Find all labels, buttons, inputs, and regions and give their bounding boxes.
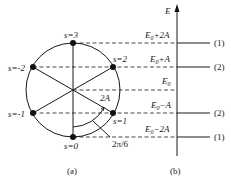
angle-arc (73, 108, 104, 127)
degeneracy-e0ma: (2) (214, 108, 225, 118)
energy-label-e0: E0 (161, 76, 171, 87)
axis-arrow-icon (175, 4, 180, 12)
state-dot-sm2 (30, 64, 36, 70)
state-label-sm1: s=-1 (8, 109, 25, 119)
state-label-s2: s=2 (113, 54, 128, 64)
energy-label-e0ma: E0−A (150, 100, 172, 111)
state-dot-s0 (70, 134, 76, 140)
state-dot-s3 (70, 40, 76, 46)
state-label-s0: s=0 (64, 141, 79, 151)
state-dot-sm1 (30, 110, 36, 116)
caption-a: (a) (67, 166, 77, 176)
coupling-label: 2A (100, 93, 111, 103)
energy-label-e0pa: E0+A (149, 54, 171, 65)
panel-b: E (1) (2) (2) (1) E0+2A E0+A E0 E0−A E0−… (144, 4, 225, 176)
energy-level-diagram: s=3 s=2 s=1 s=0 s=-1 s=-2 2A 2π/6 (a) E … (0, 0, 231, 186)
energy-label-e0m2a: E0−2A (144, 124, 170, 135)
degeneracy-e0m2a: (1) (214, 132, 225, 142)
axis-label-e: E (164, 6, 171, 16)
state-label-s1: s=1 (113, 116, 127, 126)
caption-b: (b) (170, 166, 181, 176)
state-label-s3: s=3 (64, 30, 79, 40)
state-dot-s2 (110, 64, 116, 70)
energy-label-e0p2a: E0+2A (144, 30, 170, 41)
angle-label: 2π/6 (112, 139, 129, 149)
degeneracy-e0pa: (2) (214, 62, 225, 72)
degeneracy-e0p2a: (1) (214, 38, 225, 48)
angle-leader-line (93, 121, 110, 137)
state-label-sm2: s=-2 (8, 63, 26, 73)
